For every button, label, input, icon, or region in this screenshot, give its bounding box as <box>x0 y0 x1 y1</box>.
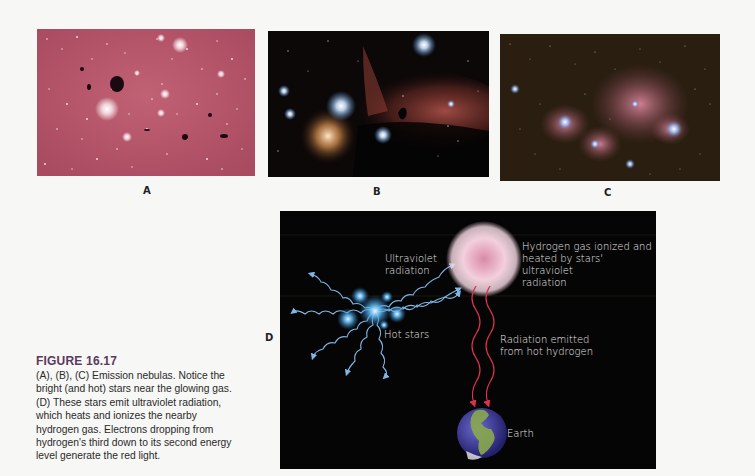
hydrogen-gas-cloud <box>446 221 522 297</box>
caption-text: (A), (B), (C) Emission nebulas. Notice t… <box>36 369 236 463</box>
figure-number: FIGURE 16.17 <box>36 354 276 368</box>
nebula-image-c <box>500 34 720 181</box>
emission-nebula-diagram: Ultraviolet radiation Hydrogen gas ioniz… <box>280 211 656 469</box>
panel-label-c: C <box>604 187 611 198</box>
earth-label: Earth <box>507 428 534 440</box>
panel-label-b: B <box>373 186 381 197</box>
nebula-image-b <box>268 31 489 177</box>
panel-label-a: A <box>143 185 151 196</box>
ultraviolet-radiation-label: Ultraviolet radiation <box>385 253 437 277</box>
radiation-emitted-label: Radiation emitted from hot hydrogen <box>500 334 650 358</box>
figure-caption: FIGURE 16.17 (A), (B), (C) Emission nebu… <box>36 354 276 463</box>
photo-panel-a <box>37 29 255 176</box>
red-emission-rays <box>472 286 494 404</box>
photo-panel-b <box>268 31 489 177</box>
panel-label-d: D <box>265 332 273 343</box>
nebula-image-a <box>37 29 255 176</box>
hydrogen-gas-label: Hydrogen gas ionized and heated by stars… <box>522 241 656 289</box>
earth-globe <box>457 408 507 460</box>
photo-panel-c <box>500 34 720 181</box>
hot-stars-label: Hot stars <box>384 329 429 341</box>
hot-stars <box>337 287 406 330</box>
